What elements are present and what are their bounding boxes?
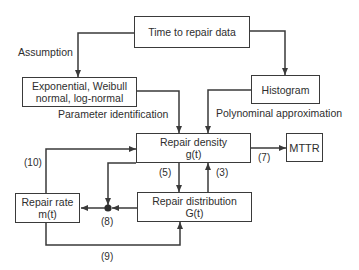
arrow-time-to-histogram — [250, 31, 285, 75]
repair-distribution-box: Repair distribution G(t) — [137, 192, 252, 222]
edge-label-7: (7) — [258, 152, 270, 164]
box-label: Time to repair data — [148, 26, 236, 38]
box-label-line-1: Repair rate — [22, 196, 74, 208]
mttr-box: MTTR — [286, 133, 323, 162]
box-label-line-2: m(t) — [38, 208, 57, 220]
box-label: Histogram — [262, 84, 310, 96]
edge-label-10: (10) — [24, 157, 42, 169]
box-label-line-2: g(t) — [186, 148, 202, 160]
arrow-time-to-distributions — [78, 33, 134, 77]
arrow-density-to-junction — [108, 163, 136, 205]
box-label-line-2: G(t) — [185, 207, 203, 219]
time-to-repair-data-box: Time to repair data — [134, 16, 250, 48]
distributions-box: Exponential, Weibull normal, log-normal — [22, 77, 137, 107]
edge-label-9: (9) — [101, 251, 113, 263]
box-label: MTTR — [289, 142, 320, 154]
edge-label-parameter-identification: Parameter identification — [58, 108, 168, 120]
edge-label-5: (5) — [159, 167, 171, 179]
box-label-line-1: Repair distribution — [152, 195, 237, 207]
box-label-line-2: normal, log-normal — [36, 92, 124, 104]
box-label-line-1: Repair density — [160, 136, 227, 148]
junction-node — [104, 204, 111, 211]
box-label-line-1: Exponential, Weibull — [32, 80, 127, 92]
histogram-box: Histogram — [251, 75, 320, 104]
flow-diagram: Time to repair data Exponential, Weibull… — [0, 0, 359, 270]
repair-rate-box: Repair rate m(t) — [15, 193, 80, 223]
repair-density-box: Repair density g(t) — [136, 133, 251, 163]
edge-label-3: (3) — [216, 167, 228, 179]
arrow-rate-to-density — [46, 149, 136, 193]
edge-label-polynomial-approximation: Polynominal approximation — [216, 107, 342, 119]
edge-label-8: (8) — [101, 216, 113, 228]
edge-label-assumption: Assumption — [18, 46, 73, 58]
